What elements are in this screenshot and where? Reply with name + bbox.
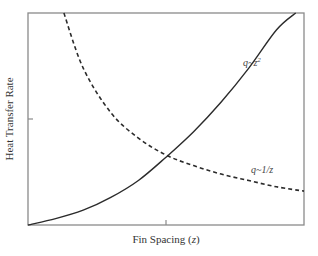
x-axis-label-close: ) bbox=[196, 233, 200, 245]
y-axis-label: Heat Transfer Rate bbox=[3, 64, 19, 174]
series-q-z-squared-solid bbox=[28, 13, 296, 225]
annotation-q-z-squared: q~z2 bbox=[243, 56, 261, 68]
annotation-exponent: 2 bbox=[257, 56, 261, 64]
x-axis-label-text: Fin Spacing ( bbox=[132, 233, 191, 245]
chart-canvas bbox=[0, 0, 318, 256]
plot-frame bbox=[28, 13, 304, 225]
annotation-q-z-squared-text: q~z bbox=[243, 57, 257, 68]
x-axis-label: Fin Spacing (z) bbox=[28, 233, 304, 245]
annotation-q-inverse-z: q~1/z bbox=[251, 164, 273, 175]
annotation-q-inverse-z-text: q~1/z bbox=[251, 164, 273, 175]
